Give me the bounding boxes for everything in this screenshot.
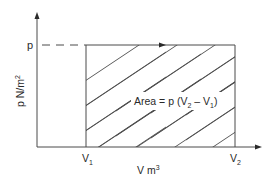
pressure-level-label: p <box>27 39 33 51</box>
v2-tick-label: V2 <box>230 152 241 166</box>
y-axis-label: p N/m2 <box>14 75 26 107</box>
x-axis <box>37 145 262 150</box>
pv-diagram: p p N/m2 Area = p (V2 – V1) V1 V2 V m3 <box>0 0 276 188</box>
y-axis-arrow-icon <box>35 12 40 19</box>
x-axis-arrow-icon <box>255 145 262 150</box>
area-formula-label: Area = p (V2 – V1) <box>134 95 217 109</box>
x-axis-label: V m3 <box>137 164 160 176</box>
y-axis <box>35 12 40 147</box>
process-direction-arrow-icon <box>159 43 166 48</box>
v1-tick-label: V1 <box>82 152 93 166</box>
